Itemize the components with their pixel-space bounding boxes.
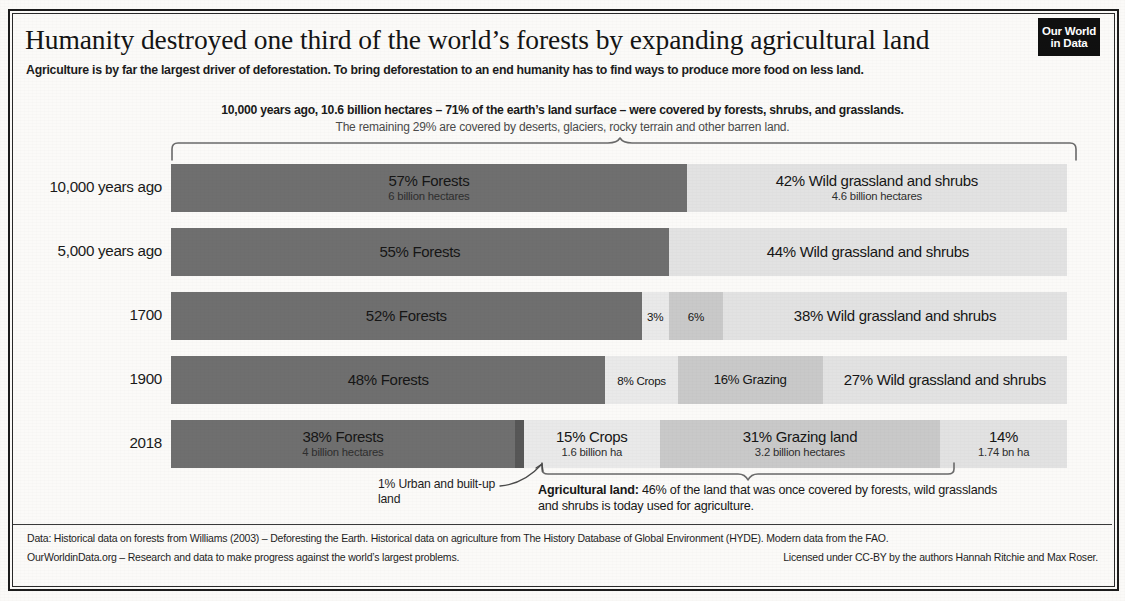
bar-row: 48% Forests8% Crops16% Grazing27% Wild g… — [171, 356, 1076, 404]
bottom-brace-icon — [540, 462, 956, 482]
row-label-3: 1700 — [10, 306, 162, 323]
footer-site-line[interactable]: OurWorldinData.org – Research and data t… — [27, 551, 459, 563]
segment-label: 27% Wild grassland and shrubs — [830, 372, 1060, 389]
footer-source-line: Data: Historical data on forests from Wi… — [27, 532, 1099, 544]
segment-label: 8% Crops — [617, 374, 666, 387]
bar-segment-wild[interactable]: 38% Wild grassland and shrubs — [723, 292, 1067, 340]
bar-row: 55% Forests44% Wild grassland and shrubs — [171, 228, 1076, 276]
urban-land-annotation: 1% Urban and built-up land — [378, 477, 496, 508]
bar-segment-grazing[interactable]: 6% — [669, 292, 723, 340]
bar-segment-forests[interactable]: 48% Forests — [171, 356, 605, 404]
bar-segment-forests[interactable]: 52% Forests — [171, 292, 642, 340]
segment-sublabel: 4.6 billion hectares — [832, 190, 922, 203]
row-label-4: 1900 — [10, 370, 162, 387]
segment-sublabel: 6 billion hectares — [388, 190, 469, 203]
bar-segment-grazing[interactable]: 16% Grazing — [678, 356, 823, 404]
bar-segment-forests[interactable]: 38% Forests4 billion hectares — [171, 420, 515, 468]
segment-label: 14% — [989, 429, 1018, 446]
segment-sublabel: 4 billion hectares — [302, 446, 383, 459]
bar-row: 57% Forests6 billion hectares42% Wild gr… — [171, 164, 1076, 212]
bar-row: 52% Forests3%6%38% Wild grassland and sh… — [171, 292, 1076, 340]
bar-segment-wild[interactable]: 44% Wild grassland and shrubs — [669, 228, 1067, 276]
row-label-1: 10,000 years ago — [10, 178, 162, 195]
segment-label: 38% Forests — [302, 429, 383, 446]
bar-segment-crops[interactable]: 3% — [642, 292, 669, 340]
segment-label: 38% Wild grassland and shrubs — [794, 308, 996, 325]
segment-label: 15% Crops — [556, 429, 628, 446]
footer-license-line: Licensed under CC-BY by the authors Hann… — [783, 551, 1098, 563]
segment-label: 31% Grazing land — [743, 429, 857, 446]
agricultural-land-annotation: Agricultural land: 46% of the land that … — [538, 482, 1008, 515]
segment-label: 16% Grazing — [714, 373, 787, 388]
segment-label: 44% Wild grassland and shrubs — [767, 244, 969, 261]
segment-label: 3% — [647, 310, 663, 323]
bar-segment-forests[interactable]: 55% Forests — [171, 228, 669, 276]
segment-label: 57% Forests — [388, 173, 469, 190]
bar-segment-grazing[interactable]: 31% Grazing land3.2 billion hectares — [660, 420, 941, 468]
bar-segment-crops[interactable]: 8% Crops — [605, 356, 677, 404]
chart-page: Humanity destroyed one third of the worl… — [0, 0, 1125, 601]
segment-label: 52% Forests — [366, 308, 447, 325]
bar-segment-crops[interactable]: 15% Crops1.6 billion ha — [524, 420, 660, 468]
bar-segment-wild[interactable]: 42% Wild grassland and shrubs4.6 billion… — [687, 164, 1067, 212]
segment-sublabel: 1.6 billion ha — [561, 446, 622, 459]
bar-segment-forests[interactable]: 57% Forests6 billion hectares — [171, 164, 687, 212]
bar-segment-wild[interactable]: 27% Wild grassland and shrubs — [823, 356, 1067, 404]
segment-label: 42% Wild grassland and shrubs — [776, 173, 978, 190]
segment-label: 6% — [688, 310, 704, 323]
bar-segment-wild[interactable]: 14%1.74 bn ha — [940, 420, 1067, 468]
row-label-5: 2018 — [10, 434, 162, 451]
segment-label: 48% Forests — [348, 372, 429, 389]
segment-sublabel: 1.74 bn ha — [978, 446, 1029, 459]
agricultural-land-label: Agricultural land: — [538, 483, 639, 497]
segment-label: 55% Forests — [379, 244, 460, 261]
row-label-2: 5,000 years ago — [10, 242, 162, 259]
segment-sublabel: 3.2 billion hectares — [755, 446, 845, 459]
bar-row: 38% Forests4 billion hectares15% Crops1.… — [171, 420, 1076, 468]
footer-divider — [13, 524, 1112, 525]
bar-segment-urban[interactable] — [515, 420, 524, 468]
